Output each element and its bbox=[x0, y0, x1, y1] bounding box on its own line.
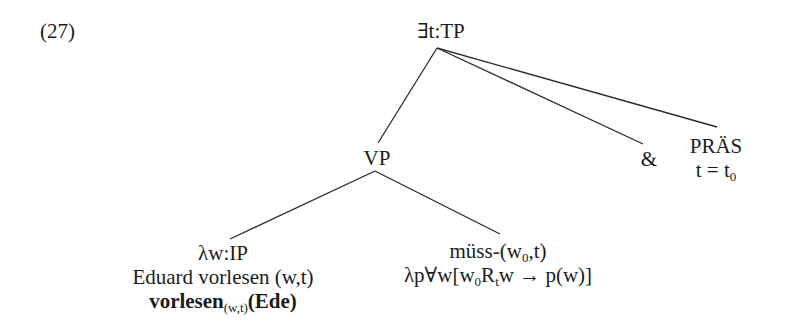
equation-op: = bbox=[707, 158, 719, 182]
equation-lhs: t bbox=[696, 158, 702, 182]
tense-label: PRÄS bbox=[690, 134, 743, 158]
edge-vp-ip bbox=[230, 171, 375, 239]
tense-equation: t = t0 bbox=[690, 158, 743, 182]
edge-tp-pras bbox=[437, 48, 717, 127]
modal-line-2-mid: R bbox=[481, 263, 495, 287]
ip-gloss: Eduard vorlesen (w,t) bbox=[132, 265, 313, 289]
node-vp: VP bbox=[364, 146, 391, 170]
ip-formula: vorlesen(w,t)(Ede) bbox=[132, 289, 313, 313]
modal-line-1-post: ,t) bbox=[528, 239, 546, 263]
edge-tp-vp bbox=[378, 48, 437, 143]
equation-rhs: t0 bbox=[724, 158, 736, 182]
modal-line-2-post: w → p(w)] bbox=[499, 263, 592, 287]
modal-line-2: λp∀w[w0Rtw → p(w)] bbox=[404, 263, 592, 287]
example-number: (27) bbox=[40, 19, 75, 43]
modal-line-1: müss-(w0,t) bbox=[404, 239, 592, 263]
node-tense: PRÄS t = t0 bbox=[690, 134, 743, 182]
ip-formula-pred-sub: (w,t) bbox=[224, 300, 248, 315]
edge-tp-conj bbox=[437, 48, 643, 144]
edge-vp-modal bbox=[375, 171, 500, 234]
node-modal: müss-(w0,t) λp∀w[w0Rtw → p(w)] bbox=[404, 239, 592, 287]
modal-line-1-pre: müss-(w bbox=[450, 239, 522, 263]
node-ip: λw:IP Eduard vorlesen (w,t) vorlesen(w,t… bbox=[132, 241, 313, 313]
tree-edges bbox=[0, 0, 787, 335]
modal-line-2-pre: λp∀w[w bbox=[404, 263, 475, 287]
ip-formula-arg: (Ede) bbox=[248, 289, 297, 313]
node-conjunction: & bbox=[641, 147, 657, 171]
ip-label: λw:IP bbox=[132, 241, 313, 265]
node-tp: ∃t:TP bbox=[417, 19, 465, 43]
ip-formula-pred: vorlesen bbox=[149, 289, 224, 313]
equation-rhs-sub: 0 bbox=[730, 169, 737, 184]
